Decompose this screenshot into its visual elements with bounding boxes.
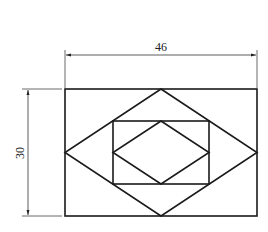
outer-rhombus <box>65 89 257 216</box>
inner-rhombus <box>113 121 209 184</box>
inner-rectangle <box>113 121 209 184</box>
width-dimension-label: 46 <box>155 40 167 54</box>
drawing-canvas: 46 30 <box>0 0 268 232</box>
height-dimension: 30 <box>13 89 62 216</box>
outer-rectangle <box>65 89 257 216</box>
height-dimension-label: 30 <box>13 147 27 159</box>
width-dimension: 46 <box>65 40 257 88</box>
figure <box>65 89 257 216</box>
